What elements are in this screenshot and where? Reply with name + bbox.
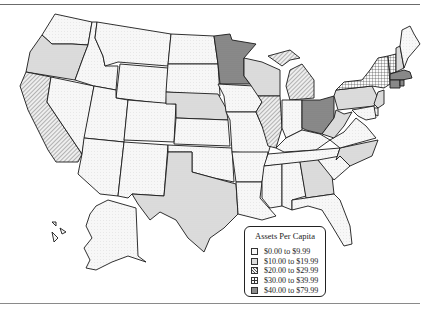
state-ks [174, 118, 230, 146]
bottom-divider [0, 303, 420, 304]
swatch-icon [251, 267, 258, 274]
legend-label: $20.00 to $29.99 [264, 266, 318, 275]
legend-item: $30.00 to $39.99 [251, 276, 318, 286]
legend-item: $20.00 to $29.99 [251, 266, 318, 276]
state-ny [336, 56, 390, 90]
legend-title: Assets Per Capita [245, 231, 325, 241]
state-ct [390, 80, 400, 88]
legend-label: $0.00 to $9.99 [264, 247, 310, 256]
legend-label: $40.00 to $79.99 [264, 286, 318, 295]
state-co [124, 100, 176, 142]
legend-item: $40.00 to $79.99 [251, 285, 318, 295]
state-az [78, 138, 124, 196]
state-wy [116, 64, 168, 104]
state-mt [95, 22, 171, 66]
legend-items: $0.00 to $9.99 $10.00 to $19.99 $20.00 t… [251, 247, 318, 295]
legend-item: $10.00 to $19.99 [251, 257, 318, 267]
swatch-icon [251, 248, 258, 255]
state-nd [168, 34, 218, 64]
swatch-icon [251, 277, 258, 284]
state-ri [400, 80, 404, 86]
swatch-icon [251, 258, 258, 265]
state-nm [118, 142, 168, 198]
legend: Assets Per Capita $0.00 to $9.99 $10.00 … [244, 226, 326, 297]
state-me [400, 26, 420, 68]
legend-label: $30.00 to $39.99 [264, 276, 318, 285]
state-wa [42, 14, 92, 45]
state-sd [166, 64, 220, 96]
us-map [0, 0, 428, 318]
state-hi [52, 222, 66, 242]
state-ms [262, 164, 282, 208]
legend-item: $0.00 to $9.99 [251, 247, 318, 257]
swatch-icon [251, 287, 258, 294]
legend-label: $10.00 to $19.99 [264, 257, 318, 266]
state-ak [84, 200, 146, 270]
